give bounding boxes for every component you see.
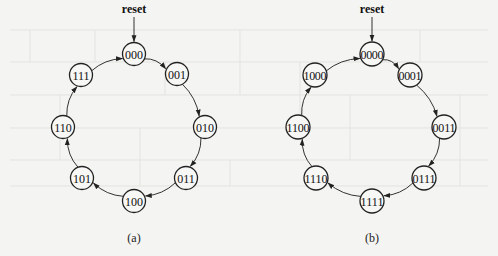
diagram-caption: (a) — [127, 231, 140, 245]
transition-arrow-1111-to-1110 — [328, 183, 361, 197]
state-label: 0000 — [361, 48, 384, 62]
transition-arrow-0000-to-0001 — [383, 60, 399, 69]
state-label: 110 — [54, 121, 72, 135]
state-label: 0011 — [433, 121, 456, 135]
reset-label: reset — [360, 2, 384, 16]
johnson-counter-diagram-b: reset00000001001101111111111011001000(b) — [286, 2, 456, 245]
state-label: 1110 — [305, 172, 328, 186]
state-node: 000 — [123, 43, 146, 66]
state-label: 011 — [177, 172, 195, 186]
state-label: 101 — [73, 172, 91, 186]
background-bleed-through — [10, 30, 488, 186]
state-node: 1100 — [286, 115, 310, 139]
state-label: 001 — [168, 68, 186, 82]
state-node: 1110 — [304, 166, 328, 190]
state-node: 010 — [194, 116, 217, 139]
transition-arrow-100-to-101 — [93, 183, 123, 196]
state-node: 0001 — [398, 63, 422, 87]
state-label: 111 — [72, 69, 89, 83]
transition-arrow-1100-to-1000 — [302, 87, 311, 115]
transition-arrow-001-to-010 — [182, 84, 199, 116]
diagram-caption: (b) — [365, 231, 379, 245]
transition-arrow-011-to-100 — [145, 183, 175, 196]
ring-counter-diagram-a: reset000001010011100101110111(a) — [52, 2, 217, 245]
transition-arrow-111-to-000 — [92, 59, 123, 71]
transition-arrow-0011-to-0111 — [429, 138, 440, 166]
state-label: 0111 — [413, 172, 436, 186]
state-label: 1111 — [361, 195, 384, 209]
state-node: 1111 — [360, 189, 384, 213]
state-label: 100 — [125, 195, 143, 209]
transition-arrow-1000-to-0000 — [326, 58, 360, 70]
state-label: 1100 — [287, 121, 310, 135]
state-label: 0001 — [399, 69, 422, 83]
state-node: 0011 — [432, 115, 456, 139]
state-node: 1000 — [303, 63, 327, 87]
state-label: 000 — [125, 48, 143, 62]
state-node: 110 — [52, 116, 75, 139]
state-node: 101 — [71, 167, 94, 190]
transition-arrow-110-to-111 — [67, 87, 77, 116]
reset-label: reset — [122, 2, 146, 16]
state-label: 1000 — [304, 69, 327, 83]
state-node: 100 — [123, 190, 146, 213]
transition-arrow-1110-to-1100 — [302, 139, 312, 166]
state-node: 011 — [175, 167, 198, 190]
state-label: 010 — [196, 121, 214, 135]
transition-arrow-0001-to-0011 — [417, 85, 437, 116]
transition-arrow-010-to-011 — [190, 138, 201, 167]
state-node: 0000 — [360, 42, 384, 66]
state-diagrams-canvas: reset000001010011100101110111(a) reset00… — [0, 0, 498, 256]
transition-arrow-101-to-110 — [67, 139, 78, 168]
transition-arrow-0111-to-1111 — [384, 183, 413, 196]
state-node: 111 — [70, 64, 93, 87]
state-node: 001 — [166, 63, 189, 86]
state-node: 0111 — [412, 166, 436, 190]
transition-arrow-000-to-001 — [144, 59, 165, 69]
